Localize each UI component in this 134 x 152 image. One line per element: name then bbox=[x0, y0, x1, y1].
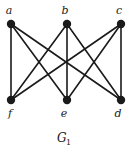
caption-subscript: 1 bbox=[66, 138, 71, 147]
graph-vertex-d bbox=[117, 96, 125, 104]
vertex-label-b: b bbox=[61, 4, 68, 17]
graph-vertex-c bbox=[117, 20, 125, 28]
vertex-label-c: c bbox=[116, 4, 122, 17]
vertex-label-f: f bbox=[7, 107, 14, 120]
graph-vertex-a bbox=[7, 20, 15, 28]
graph-vertex-f bbox=[7, 96, 15, 104]
vertex-label-a: a bbox=[6, 4, 13, 17]
graph-diagram: abcfed G 1 bbox=[0, 0, 134, 152]
figure-caption: G 1 bbox=[57, 131, 71, 147]
vertex-label-d: d bbox=[114, 107, 121, 120]
graph-vertex-e bbox=[63, 96, 71, 104]
edge-layer bbox=[11, 24, 121, 100]
vertex-label-e: e bbox=[61, 107, 68, 120]
figure-container: abcfed G 1 bbox=[0, 0, 134, 152]
graph-vertex-b bbox=[63, 20, 71, 28]
